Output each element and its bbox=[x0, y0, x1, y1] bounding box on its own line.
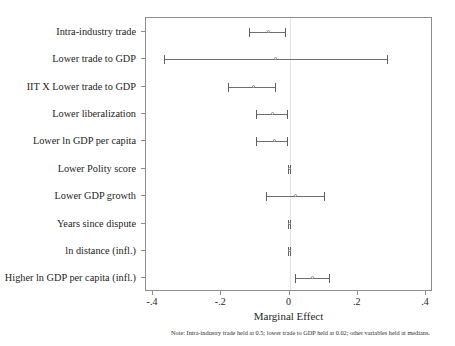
ci-cap-high bbox=[324, 192, 325, 201]
point-estimate-marker bbox=[267, 30, 270, 33]
category-label: Lower GDP growth bbox=[55, 190, 136, 201]
x-tick bbox=[425, 291, 426, 295]
ci-cap-low bbox=[228, 83, 229, 92]
estimate-row bbox=[146, 196, 431, 197]
ci-cap-low bbox=[256, 110, 257, 119]
marginal-effects-coefficient-plot: Intra-industry tradeLower trade to GDPII… bbox=[0, 0, 455, 346]
category-label: Lower liberalization bbox=[52, 107, 136, 118]
ci-cap-low bbox=[266, 192, 267, 201]
x-tick-label: .2 bbox=[353, 296, 361, 307]
estimate-row bbox=[146, 169, 431, 170]
x-tick bbox=[357, 291, 358, 295]
x-axis-title: Marginal Effect bbox=[145, 310, 432, 322]
estimate-row bbox=[146, 224, 431, 225]
x-tick-label: -.4 bbox=[147, 296, 158, 307]
category-label: Lower ln GDP per capita bbox=[33, 135, 136, 146]
point-estimate-marker bbox=[288, 167, 291, 170]
x-tick-label: 0 bbox=[286, 296, 291, 307]
ci-cap-low bbox=[295, 274, 296, 283]
estimate-row bbox=[146, 278, 431, 279]
point-estimate-marker bbox=[271, 112, 274, 115]
ci-cap-high bbox=[287, 110, 288, 119]
point-estimate-marker bbox=[274, 57, 277, 60]
confidence-interval-bar bbox=[256, 141, 288, 142]
category-label: ln distance (infl.) bbox=[65, 244, 136, 255]
category-label: IIT X Lower trade to GDP bbox=[27, 80, 136, 91]
x-tick bbox=[289, 291, 290, 295]
category-label: Higher ln GDP per capita (infl.) bbox=[5, 272, 136, 283]
ci-cap-high bbox=[287, 137, 288, 146]
estimate-row bbox=[146, 114, 431, 115]
category-label: Lower trade to GDP bbox=[52, 53, 136, 64]
x-tick-label: -.2 bbox=[215, 296, 226, 307]
point-estimate-marker bbox=[288, 222, 291, 225]
x-tick bbox=[220, 291, 221, 295]
ci-cap-high bbox=[285, 28, 286, 37]
category-label: Intra-industry trade bbox=[56, 25, 136, 36]
chart-footnote: Note: Intra-industry trade held at 0.5; … bbox=[148, 329, 453, 337]
estimate-row bbox=[146, 32, 431, 33]
category-label: Years since dispute bbox=[57, 217, 136, 228]
point-estimate-marker bbox=[294, 194, 297, 197]
estimate-row bbox=[146, 251, 431, 252]
ci-cap-high bbox=[275, 83, 276, 92]
ci-cap-low bbox=[256, 137, 257, 146]
ci-cap-low bbox=[249, 28, 250, 37]
estimate-row bbox=[146, 141, 431, 142]
point-estimate-marker bbox=[252, 85, 255, 88]
estimate-row bbox=[146, 87, 431, 88]
category-label: Lower Polity score bbox=[58, 162, 136, 173]
estimate-row bbox=[146, 59, 431, 60]
category-axis-labels: Intra-industry tradeLower trade to GDPII… bbox=[0, 0, 145, 291]
ci-cap-low bbox=[164, 55, 165, 64]
ci-cap-high bbox=[329, 274, 330, 283]
point-estimate-marker bbox=[288, 249, 291, 252]
plot-area bbox=[145, 17, 432, 291]
x-tick-label: .4 bbox=[421, 296, 429, 307]
ci-cap-high bbox=[387, 55, 388, 64]
x-tick bbox=[152, 291, 153, 295]
